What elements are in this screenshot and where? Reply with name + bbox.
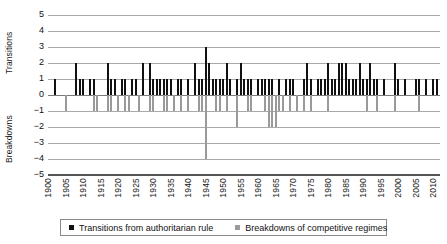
black-square-marker-icon — [69, 225, 74, 230]
x-tick-label-1975: 1975 — [306, 178, 316, 198]
bar — [376, 95, 378, 111]
bar — [310, 95, 312, 111]
legend-label-breakdowns: Breakdowns of competitive regimes — [245, 223, 387, 233]
bar — [166, 95, 168, 111]
gridline-5 — [48, 15, 440, 16]
legend-label-transitions: Transitions from authoritarian rule — [79, 223, 213, 233]
bar — [278, 95, 280, 111]
bar — [128, 95, 130, 111]
gridline--2 — [48, 127, 440, 128]
bar — [397, 79, 399, 95]
bar — [292, 79, 294, 95]
bar — [303, 79, 305, 95]
chart-container: Transitions Breakdowns 543210−1−2−3−4−5 … — [0, 0, 447, 244]
bar — [341, 63, 343, 95]
bar — [205, 47, 207, 95]
bar — [201, 95, 203, 111]
bar — [138, 95, 140, 111]
bar — [289, 95, 291, 111]
bar — [187, 79, 189, 95]
plot-area — [48, 15, 440, 175]
legend-item-transitions: Transitions from authoritarian rule — [69, 223, 213, 233]
bar — [289, 79, 291, 95]
bar — [240, 63, 242, 95]
chart-legend: Transitions from authoritarian rule Brea… — [60, 219, 387, 236]
bar — [264, 79, 266, 95]
bar — [152, 95, 154, 111]
y-tick-label--2: −2 — [22, 122, 44, 131]
bar — [247, 95, 249, 111]
bar — [219, 79, 221, 95]
bar — [194, 63, 196, 95]
x-tick-label-1940: 1940 — [183, 178, 193, 198]
x-tick-label-1915: 1915 — [96, 178, 106, 198]
bar — [110, 79, 112, 95]
bar — [149, 63, 151, 95]
bar — [159, 79, 161, 95]
x-tick-label-1965: 1965 — [271, 178, 281, 198]
bar — [96, 95, 98, 111]
bar — [394, 95, 396, 111]
bar — [352, 79, 354, 95]
bar — [82, 79, 84, 95]
y-tick-label-2: 2 — [22, 58, 44, 67]
bar — [338, 63, 340, 95]
bar — [152, 79, 154, 95]
bar — [331, 79, 333, 95]
y-tick-label-0: 0 — [22, 90, 44, 99]
x-tick-label-1925: 1925 — [131, 178, 141, 198]
bar — [264, 95, 266, 111]
bar — [345, 63, 347, 95]
bar — [404, 79, 406, 95]
y-axis-title-breakdowns: Breakdowns — [4, 100, 14, 178]
bar — [334, 79, 336, 95]
x-tick-label-1910: 1910 — [78, 178, 88, 198]
bar — [212, 79, 214, 95]
bar — [156, 79, 158, 95]
bar — [124, 79, 126, 95]
bar — [327, 63, 329, 95]
bar — [236, 95, 238, 127]
x-tick-label-1955: 1955 — [236, 178, 246, 198]
bar — [107, 95, 109, 111]
bar — [131, 79, 133, 95]
x-tick-label-1980: 1980 — [323, 178, 333, 198]
x-tick-label-1905: 1905 — [61, 178, 71, 198]
bar — [215, 79, 217, 95]
gridline--4 — [48, 159, 440, 160]
bar — [198, 95, 200, 111]
bar — [222, 79, 224, 95]
bar — [110, 95, 112, 111]
bar — [89, 79, 91, 95]
bar — [114, 79, 116, 95]
bar — [208, 63, 210, 95]
bar — [383, 79, 385, 95]
bar — [250, 79, 252, 95]
bar — [306, 63, 308, 95]
x-tick-label-1985: 1985 — [341, 178, 351, 198]
bar — [247, 79, 249, 95]
x-tick-label-2000: 2000 — [393, 178, 403, 198]
x-tick-label-1920: 1920 — [113, 178, 123, 198]
bar — [359, 63, 361, 95]
x-tick-label-1935: 1935 — [166, 178, 176, 198]
bar — [268, 79, 270, 95]
bar — [117, 95, 119, 111]
x-tick-label-1960: 1960 — [253, 178, 263, 198]
bar — [418, 79, 420, 95]
bar — [373, 79, 375, 95]
bar — [362, 79, 364, 95]
bar — [201, 79, 203, 95]
bar — [366, 79, 368, 95]
x-tick-label-1970: 1970 — [288, 178, 298, 198]
x-axis-line — [48, 174, 440, 175]
bar — [54, 79, 56, 95]
bar — [275, 95, 277, 127]
bar — [278, 79, 280, 95]
bar — [149, 95, 151, 111]
bar — [198, 79, 200, 95]
bar — [418, 95, 420, 111]
bar — [124, 95, 126, 111]
bar — [366, 95, 368, 111]
bar — [348, 79, 350, 95]
